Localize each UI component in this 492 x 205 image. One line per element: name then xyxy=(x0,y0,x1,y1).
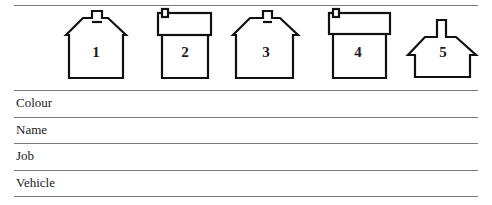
house-3: 3 xyxy=(233,11,298,78)
row-label-vehicle: Vehicle xyxy=(16,176,55,190)
row-rule xyxy=(14,117,478,118)
house-2-chimney xyxy=(162,9,168,17)
row-label-job: Job xyxy=(16,149,34,163)
house-4: 4 xyxy=(329,9,390,78)
row-label-colour: Colour xyxy=(16,96,52,110)
house-4-chimney xyxy=(333,9,339,17)
house-5: 5 xyxy=(408,20,476,77)
row-rule xyxy=(14,170,478,171)
house-number: 2 xyxy=(181,44,189,60)
house-2: 2 xyxy=(158,9,211,78)
house-number: 1 xyxy=(92,44,100,60)
houses-illustration: 1 2 3 4 5 xyxy=(0,0,492,92)
houses-bottom-rule xyxy=(14,90,478,91)
row-rule xyxy=(14,143,478,144)
house-number: 4 xyxy=(354,44,362,60)
row-rule xyxy=(14,196,478,197)
row-label-name: Name xyxy=(16,123,47,137)
house-number: 5 xyxy=(439,44,447,60)
house-number: 3 xyxy=(262,44,270,60)
house-1: 1 xyxy=(66,11,126,78)
